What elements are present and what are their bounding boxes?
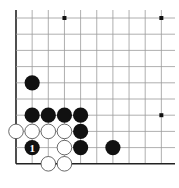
white-stone xyxy=(9,124,24,139)
black-stone xyxy=(57,108,72,123)
black-stone: 1 xyxy=(25,140,40,155)
star-point-icon xyxy=(159,113,163,117)
white-stone xyxy=(57,140,72,155)
white-stone xyxy=(41,124,56,139)
board-grid xyxy=(16,10,175,164)
white-stone xyxy=(25,124,40,139)
go-board: 1 xyxy=(0,0,179,188)
black-stone xyxy=(105,140,120,155)
white-stone xyxy=(41,157,56,172)
star-point-icon xyxy=(62,16,66,20)
white-stone xyxy=(57,157,72,172)
black-stone xyxy=(73,124,88,139)
black-stone xyxy=(25,75,40,90)
move-number-label: 1 xyxy=(29,142,35,154)
black-stone xyxy=(41,108,56,123)
black-stone xyxy=(73,140,88,155)
black-stone xyxy=(73,108,88,123)
black-stone xyxy=(25,108,40,123)
white-stone xyxy=(57,124,72,139)
star-point-icon xyxy=(159,16,163,20)
